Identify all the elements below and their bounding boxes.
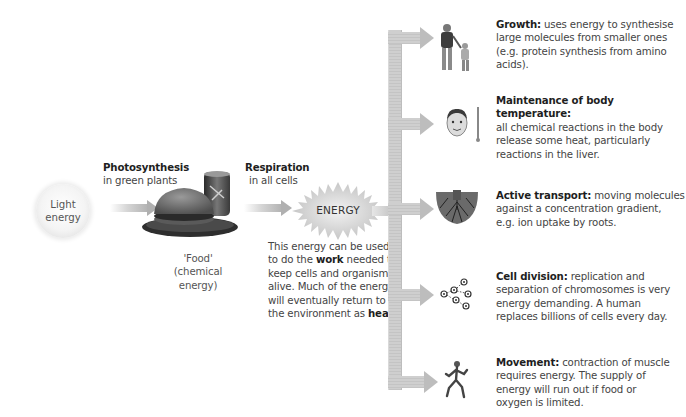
- arrow-to-cell-division: [388, 284, 434, 306]
- movement-illustration: [444, 360, 470, 400]
- arrow-head-icon: [420, 113, 434, 135]
- use-cell-division: Cell division: replication and separatio…: [496, 270, 686, 324]
- food-caption: 'Food' (chemical energy): [168, 252, 228, 292]
- arrow-head-icon: [424, 371, 438, 393]
- arrow-to-growth: [388, 27, 434, 49]
- light-energy-circle: Light energy: [36, 184, 90, 238]
- running-man-icon: [444, 360, 470, 400]
- use-title: Active transport:: [496, 190, 591, 201]
- arrow-to-movement: [388, 371, 438, 393]
- arrow-head-icon: [420, 27, 434, 49]
- light-energy-label-1: Light: [45, 198, 81, 211]
- work-keyword: work: [316, 254, 344, 265]
- use-movement: Movement: contraction of muscle requires…: [496, 356, 686, 410]
- arrow-head-icon: [420, 198, 434, 220]
- food-burger-can-icon: [140, 170, 242, 238]
- growth-illustration: [437, 22, 477, 74]
- temperature-illustration: [444, 103, 484, 143]
- use-growth: Growth: uses energy to synthesise large …: [496, 18, 686, 72]
- use-active-transport: Active transport: moving molecules again…: [496, 189, 686, 229]
- roots-illustration: [434, 190, 480, 226]
- light-energy-label-2: energy: [45, 211, 81, 224]
- use-title: Maintenance of body temperature:: [496, 95, 614, 119]
- adult-and-child-icon: [437, 22, 477, 74]
- respiration-title: Respiration: [245, 161, 309, 174]
- use-title: Cell division:: [496, 271, 568, 282]
- arrow-to-transport: [388, 198, 434, 220]
- arrow-food-to-energy: [244, 200, 292, 216]
- roots-icon: [434, 190, 480, 226]
- food-caption-line3: energy): [168, 279, 228, 292]
- food-caption-line2: (chemical: [168, 265, 228, 278]
- use-body-temperature: Maintenance of body temperature: all che…: [496, 94, 686, 161]
- cell-division-illustration: [440, 278, 476, 312]
- dividing-cells-icon: [440, 278, 476, 312]
- food-caption-line1: 'Food': [168, 252, 228, 265]
- use-title: Growth:: [496, 19, 541, 30]
- use-title: Movement:: [496, 357, 559, 368]
- food-illustration: [140, 170, 242, 238]
- face-thermometer-icon: [444, 103, 484, 143]
- arrow-to-temperature: [388, 113, 434, 135]
- arrow-head-icon: [420, 284, 434, 306]
